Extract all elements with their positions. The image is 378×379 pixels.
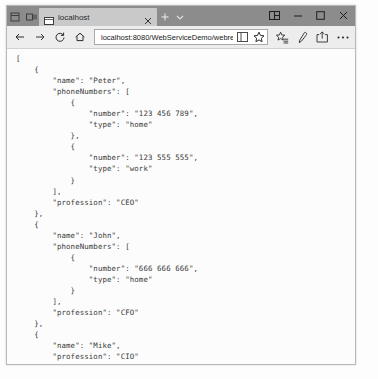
tab-strip: localhost — [7, 6, 355, 26]
split-screen-icon[interactable] — [263, 6, 286, 25]
page-icon — [44, 12, 54, 22]
refresh-icon[interactable] — [50, 28, 69, 47]
window-controls — [263, 6, 355, 26]
maximize-icon[interactable] — [309, 6, 332, 25]
address-bar[interactable]: localhost:8080/WebServiceDemo/webresourc… — [94, 29, 268, 45]
minimize-icon[interactable] — [286, 6, 309, 25]
close-window-icon[interactable] — [332, 6, 355, 25]
back-arrow-icon[interactable] — [10, 28, 29, 47]
url-text: localhost:8080/WebServiceDemo/webresourc… — [101, 33, 233, 42]
page-content-area[interactable]: [ { "name": "Peter", "phoneNumbers": [ {… — [7, 49, 355, 364]
more-ellipsis-icon[interactable] — [333, 28, 352, 47]
tabs-you-set-aside-icon[interactable] — [23, 8, 39, 26]
screenshot-root: = : : . . : .. : . . . . : .. . . . . ..… — [0, 0, 378, 379]
share-icon[interactable] — [313, 28, 332, 47]
navigation-toolbar: localhost:8080/WebServiceDemo/webresourc… — [7, 26, 355, 49]
forward-arrow-icon[interactable] — [30, 28, 49, 47]
home-icon[interactable] — [70, 28, 89, 47]
json-response-body: [ { "name": "Peter", "phoneNumbers": [ {… — [16, 53, 198, 364]
plus-icon[interactable] — [157, 8, 172, 26]
favorites-hub-icon[interactable] — [273, 28, 292, 47]
set-tabs-aside-icon[interactable] — [7, 8, 23, 26]
web-notes-pen-icon[interactable] — [293, 28, 312, 47]
close-icon[interactable] — [143, 12, 153, 22]
star-icon[interactable] — [252, 30, 265, 44]
reading-view-icon[interactable] — [236, 30, 249, 44]
browser-window: localhost — [6, 5, 356, 365]
chevron-down-icon[interactable] — [172, 8, 187, 26]
browser-tab-localhost[interactable]: localhost — [39, 8, 157, 26]
tab-title: localhost — [58, 13, 139, 22]
